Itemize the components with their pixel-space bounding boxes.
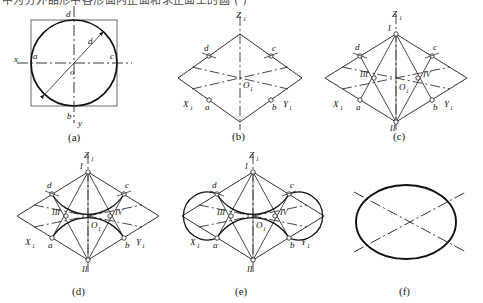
label-point-b: b xyxy=(125,240,130,250)
label-axis-y: Y 1 xyxy=(136,237,145,249)
svg-text:X: X xyxy=(24,237,31,247)
label-axis-x: X 1 xyxy=(182,99,193,111)
label-point-c: c xyxy=(272,43,276,53)
label-axis-y: Y 1 xyxy=(444,99,453,111)
label-diameter: d xyxy=(88,36,93,46)
small-arc-from-IV xyxy=(289,192,323,240)
svg-text:X: X xyxy=(182,99,189,109)
label-center-I: I xyxy=(244,162,248,171)
panel-f-drawing xyxy=(340,150,483,285)
panel-a-drawing: d b a c o x y d xyxy=(0,6,160,131)
panel-e-drawing: Z 1 X 1 Y 1 O 1 d c a b I II III IV xyxy=(165,150,345,285)
ray-II-to-d xyxy=(52,194,88,260)
label-axis-x: X 1 xyxy=(24,237,35,249)
svg-text:1: 1 xyxy=(399,15,402,21)
panel-c-drawing: Z 1 X 1 Y 1 O 1 d c a b I II III IV xyxy=(310,6,483,131)
svg-text:1: 1 xyxy=(340,105,343,111)
svg-text:X: X xyxy=(332,99,339,109)
svg-text:1: 1 xyxy=(190,105,193,111)
label-point-c: c xyxy=(433,42,437,52)
svg-text:O: O xyxy=(243,80,250,90)
label-point-a: a xyxy=(33,51,38,61)
label-point-a: a xyxy=(48,240,53,250)
svg-text:1: 1 xyxy=(243,16,246,22)
svg-text:1: 1 xyxy=(98,226,101,232)
svg-text:Z: Z xyxy=(84,150,90,160)
svg-text:O: O xyxy=(91,220,98,230)
label-origin: O 1 xyxy=(91,220,101,232)
label-center-II: II xyxy=(81,265,88,274)
caption-panel-b: (b) xyxy=(232,130,245,142)
label-axis-y: Y 1 xyxy=(283,99,292,111)
label-axis-y: Y 1 xyxy=(301,237,310,249)
svg-text:1: 1 xyxy=(289,105,292,111)
label-axis-x: X 1 xyxy=(332,99,343,111)
caption-panel-e: (e) xyxy=(235,285,247,297)
arc-center-III xyxy=(372,76,376,80)
label-point-d: d xyxy=(66,9,71,19)
label-point-d: d xyxy=(204,43,209,53)
svg-text:Z: Z xyxy=(249,150,255,160)
label-center-IV: IV xyxy=(422,70,432,79)
label-axis-y: y xyxy=(77,118,82,128)
isometric-ellipse xyxy=(356,185,456,259)
label-center-o: o xyxy=(70,67,75,77)
label-center-I: I xyxy=(79,162,83,171)
svg-text:O: O xyxy=(256,220,263,230)
label-point-c: c xyxy=(125,180,129,190)
label-center-III: III xyxy=(51,208,60,217)
label-point-a: a xyxy=(213,240,218,250)
label-origin: O 1 xyxy=(399,82,409,94)
label-point-b: b xyxy=(290,240,295,250)
ray-I-to-a xyxy=(217,172,253,238)
figure-root: 中为分外品形中各形面内正面和求正面上的圆 ( ) d b a c o x y xyxy=(0,0,483,303)
label-center-III: III xyxy=(359,70,368,79)
label-point-b: b xyxy=(433,102,438,112)
ray-II-to-d xyxy=(360,56,396,122)
label-center-IV: IV xyxy=(279,208,289,217)
label-point-c: c xyxy=(110,51,114,61)
arc-center-I xyxy=(394,32,398,36)
panel-b-drawing: Z 1 X 1 Y 1 O 1 d c a b xyxy=(155,6,310,131)
svg-text:1: 1 xyxy=(197,243,200,249)
svg-text:1: 1 xyxy=(256,156,259,162)
arc-center-III xyxy=(64,214,68,218)
label-origin: O 1 xyxy=(256,220,266,232)
label-center-I: I xyxy=(387,24,391,33)
label-point-d: d xyxy=(47,180,52,190)
svg-text:1: 1 xyxy=(450,105,453,111)
label-center-IV: IV xyxy=(114,208,124,217)
arc-center-I xyxy=(86,170,90,174)
ray-I-to-a xyxy=(360,34,396,100)
svg-text:1: 1 xyxy=(263,226,266,232)
label-center-II: II xyxy=(246,265,253,274)
small-arc-from-III xyxy=(183,192,217,240)
label-origin: O 1 xyxy=(243,80,253,92)
svg-text:1: 1 xyxy=(406,88,409,94)
svg-text:1: 1 xyxy=(250,86,253,92)
label-point-a: a xyxy=(205,102,210,112)
label-point-d: d xyxy=(355,42,360,52)
arc-center-IV xyxy=(416,76,420,80)
ray-I-to-a xyxy=(52,172,88,238)
arc-center-IV xyxy=(273,214,277,218)
label-axis-z: Z 1 xyxy=(392,9,402,21)
caption-panel-f: (f) xyxy=(399,285,410,297)
svg-text:1: 1 xyxy=(91,156,94,162)
label-point-b: b xyxy=(67,111,72,121)
label-point-d: d xyxy=(212,180,217,190)
label-axis-z: Z 1 xyxy=(249,150,259,162)
label-center-III: III xyxy=(216,208,225,217)
svg-text:1: 1 xyxy=(32,243,35,249)
svg-text:Z: Z xyxy=(236,10,242,20)
svg-text:Z: Z xyxy=(392,9,398,19)
svg-text:O: O xyxy=(399,82,406,92)
ray-II-to-d xyxy=(217,194,253,260)
label-point-c: c xyxy=(290,180,294,190)
svg-text:1: 1 xyxy=(307,243,310,249)
label-axis-z: Z 1 xyxy=(84,150,94,162)
panel-d-drawing: Z 1 X 1 Y 1 O 1 d c a b I II III IV xyxy=(0,150,180,285)
caption-panel-c: (c) xyxy=(393,130,405,142)
arc-center-II xyxy=(86,258,90,262)
label-point-a: a xyxy=(356,102,361,112)
